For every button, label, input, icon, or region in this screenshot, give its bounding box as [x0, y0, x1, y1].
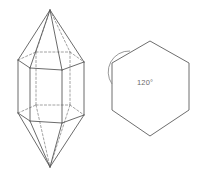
edge-top-front-left-seg [18, 60, 30, 68]
edge-bottom-front-mid-seg [30, 121, 62, 123]
crystal-bottom-pyramid-edges [18, 113, 84, 167]
hexagon-cross-section: 120° [108, 41, 189, 136]
hidden-edge-back-left-to-bottom-apex [36, 105, 50, 167]
edge-apex-to-front-midleft [30, 10, 50, 68]
geometry-figure-canvas: 120° [0, 0, 199, 174]
angle-arc-120 [108, 51, 130, 84]
crystal-hidden-edges-top-pyramid [18, 10, 84, 62]
edge-top-front-right-seg [62, 62, 84, 70]
edge-bottom-front-left-seg [18, 113, 30, 121]
hexagon-outline [112, 41, 189, 136]
hidden-edge-bottom-back-right-seg [70, 105, 84, 115]
crystal-hidden-edges-bottom-hexagon [18, 105, 84, 115]
crystal-top-hexagon-front-rim [18, 60, 84, 70]
hidden-edge-bottom-back-left-seg [18, 105, 36, 113]
hexagonal-dipyramid-crystal [18, 10, 84, 167]
edge-front-midright-to-bottom-apex [50, 123, 62, 167]
crystal-top-pyramid-edges [18, 10, 84, 70]
hidden-edge-top-back-right-seg [70, 52, 84, 62]
angle-label-120: 120° [137, 78, 153, 87]
hidden-edge-apex-to-back-right [50, 10, 70, 52]
crystal-hidden-vertical-edges [36, 52, 70, 105]
edge-front-midleft-to-bottom-apex [30, 121, 50, 167]
crystal-bottom-hexagon-front-rim [18, 113, 84, 123]
edge-top-front-mid-seg [30, 68, 62, 70]
